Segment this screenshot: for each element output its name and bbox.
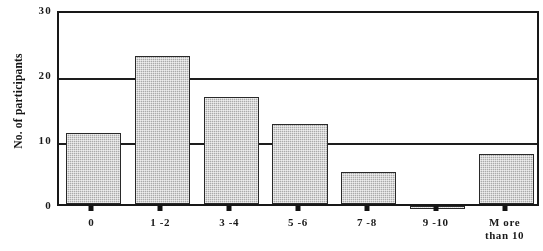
bar <box>204 97 259 204</box>
bar <box>479 154 534 204</box>
bar <box>341 172 396 205</box>
bar-chart: No. of participants 0102030 01 -23 -45 -… <box>0 0 543 251</box>
y-axis-tick-label: 30 <box>26 4 52 16</box>
bar <box>135 56 190 204</box>
x-axis: 01 -23 -45 -67 -89 -10M orethan 10 <box>57 206 539 251</box>
x-axis-tick-mark <box>158 206 163 211</box>
y-axis-tick-label: 10 <box>26 134 52 146</box>
bar <box>66 133 121 205</box>
x-axis-tick-mark <box>89 206 94 211</box>
y-axis-tick-label: 20 <box>26 69 52 81</box>
plot-area <box>57 11 539 206</box>
x-axis-tick-mark <box>364 206 369 211</box>
x-axis-tick-label: M orethan 10 <box>460 216 543 242</box>
x-axis-tick-mark <box>433 206 438 211</box>
x-axis-tick-mark <box>227 206 232 211</box>
x-axis-tick-mark <box>296 206 301 211</box>
y-axis-tick-label: 0 <box>26 199 52 211</box>
x-axis-tick-label-line2: than 10 <box>460 229 543 242</box>
bars-group <box>59 13 537 204</box>
y-axis-tick-labels: 0102030 <box>22 0 52 251</box>
bar <box>272 124 327 204</box>
x-axis-tick-mark <box>502 206 507 211</box>
